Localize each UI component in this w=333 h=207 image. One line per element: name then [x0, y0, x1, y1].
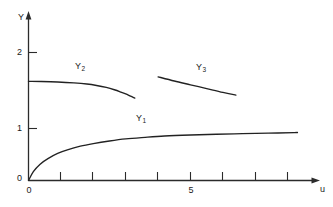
curve-label-y3-sub: 3 [202, 66, 206, 73]
curve-y1 [29, 132, 298, 180]
curve-label-y1: Y1 [136, 114, 146, 123]
curve-label-y2: Y2 [75, 62, 85, 71]
y-tick-label-0: 0 [6, 174, 22, 183]
x-tick-label-0: 0 [21, 186, 37, 195]
x-axis-label: u [320, 185, 325, 194]
curve-y2 [29, 81, 135, 98]
y-axis-arrow-icon [26, 11, 32, 20]
y-tick-label-2: 2 [6, 48, 22, 57]
x-tick-group [61, 172, 288, 180]
x-tick-label-5: 5 [183, 186, 199, 195]
curve-label-y1-sub: 1 [142, 117, 146, 124]
curve-y3 [158, 77, 236, 95]
chart-figure: Y u 2 1 0 0 5 Y1 Y2 Y3 [0, 0, 333, 207]
chart-plot-area [0, 0, 333, 207]
y-tick-label-1: 1 [6, 124, 22, 133]
curve-label-y2-sub: 2 [81, 65, 85, 72]
curve-label-y3: Y3 [196, 63, 206, 72]
y-axis-label: Y [18, 13, 24, 22]
x-axis-arrow-icon [312, 178, 321, 184]
